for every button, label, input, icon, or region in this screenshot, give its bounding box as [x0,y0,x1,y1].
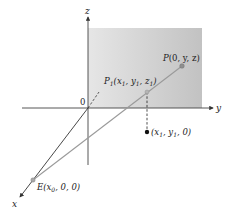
y-axis-label: y [215,103,222,113]
x-axis-label: x [12,199,17,209]
yz-plane [88,28,202,108]
point-foot [145,130,149,134]
perspective-diagram: z y x 0 P(0, y, z) P1(x1, y1, z1) (x1, y… [0,0,228,217]
origin-label: 0 [80,97,85,107]
point-e [31,178,35,182]
point-p-label: P(0, y, z) [162,53,200,63]
point-p1 [145,90,149,94]
point-foot-label: (x1, y1, 0) [151,127,191,138]
point-p [180,64,185,69]
point-e-label: E(x0, 0, 0) [36,182,80,193]
z-axis-label: z [84,6,90,16]
